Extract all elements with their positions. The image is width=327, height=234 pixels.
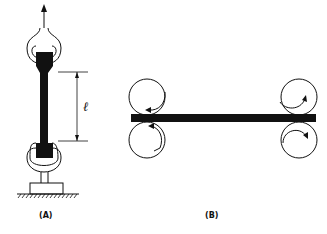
panel-b-rolling [129, 79, 317, 158]
panel-a-label: (A) [39, 211, 53, 220]
diagram-canvas [0, 0, 327, 234]
roller-right-bottom [281, 122, 317, 158]
specimen [36, 52, 53, 158]
pull-arrow-icon [41, 4, 47, 28]
metal-strip [131, 114, 316, 122]
roller-right-top [280, 79, 317, 115]
roller-left-top [129, 79, 165, 115]
length-symbol: ℓ [83, 99, 88, 115]
panel-a-tensile-test [17, 4, 88, 198]
roller-left-bottom [129, 122, 165, 158]
panel-b-label: (B) [205, 211, 218, 220]
fixed-base [17, 183, 79, 198]
